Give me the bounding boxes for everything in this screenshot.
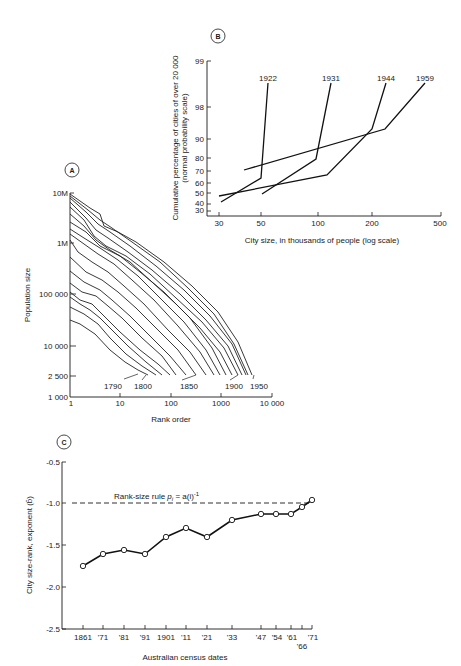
panel-a-x-ticks [120,393,272,397]
svg-text:'61: '61 [287,633,298,642]
panel-a-y-tick-labels: 10M 1M 100 000 10 000 2 500 1 000 [39,189,68,402]
svg-text:'54: '54 [272,633,283,642]
svg-text:100: 100 [311,219,325,228]
panel-a-x-tick-labels: 1 10 100 1000 10 000 [69,399,285,408]
svg-text:99: 99 [195,57,204,66]
series-1931 [262,83,331,194]
svg-text:200: 200 [365,219,379,228]
svg-text:50: 50 [195,189,204,198]
panel-a-leaders [124,374,254,380]
svg-text:'47: '47 [256,633,267,642]
svg-text:1950: 1950 [250,382,268,391]
series-1959 [244,83,425,170]
panel-b-series [219,83,425,202]
svg-text:70: 70 [195,167,204,176]
svg-text:'33: '33 [227,633,238,642]
svg-text:1850: 1850 [180,382,198,391]
svg-text:90: 90 [195,135,204,144]
svg-text:1944: 1944 [377,74,395,83]
svg-text:'21: '21 [202,633,213,642]
panel-a-y-title: Population size [23,267,32,322]
panel-b-y-title-2: (normal probability scale) [180,93,189,183]
panel-b-x-tick-labels: 30 50 100 200 500 [215,219,448,228]
svg-text:-2.0: -2.0 [46,583,60,592]
svg-text:'11: '11 [181,633,191,642]
svg-text:80: 80 [195,154,204,163]
svg-text:1800: 1800 [134,382,152,391]
panel-a-series [70,194,252,375]
svg-text:1861: 1861 [74,633,92,642]
svg-text:1922: 1922 [259,74,277,83]
svg-text:'81: '81 [119,633,130,642]
svg-text:2 500: 2 500 [48,372,69,381]
panel-a-y-ticks [70,193,76,376]
panel-b: B 99 98 90 80 70 60 50 40 30 [171,29,447,245]
series-1944 [219,83,386,196]
panel-a-letter: A [69,167,74,174]
panel-b-letter: B [215,33,220,40]
svg-text:-0.5: -0.5 [46,458,60,467]
panel-c-x-ticks [83,625,312,629]
panel-c-x-tick-labels: 1861 '71 '81 '91 1901 '11 '21 '33 '47 '5… [74,633,319,651]
svg-text:1931: 1931 [322,74,340,83]
panel-b-x-title: City size, in thousands of people (log s… [245,236,400,245]
svg-text:'71: '71 [308,633,319,642]
svg-text:10M: 10M [52,189,68,198]
panel-b-y-title-1: Cumulative percentage of cities of over … [171,55,180,221]
panel-c-y-title: City size-rank, exponent (b̂) [25,496,34,594]
svg-text:10 000: 10 000 [260,399,285,408]
panel-b-x-ticks [219,212,441,216]
panel-c-x-title: Australian census dates [143,653,228,662]
svg-text:1 000: 1 000 [48,393,69,402]
svg-text:1901: 1901 [157,633,175,642]
svg-text:98: 98 [195,103,204,112]
svg-text:1900: 1900 [225,382,243,391]
series-1922 [221,83,268,202]
svg-text:10 000: 10 000 [44,342,69,351]
svg-text:30: 30 [195,206,204,215]
svg-text:100: 100 [164,399,178,408]
panel-a-x-title: Rank order [151,415,191,424]
svg-text:500: 500 [433,219,447,228]
svg-text:50: 50 [257,219,266,228]
svg-text:'71: '71 [98,633,109,642]
svg-text:30: 30 [215,219,224,228]
panel-c-y-tick-labels: -0.5 -1.0 -1.5 -2.0 -2.5 [46,458,60,634]
svg-text:60: 60 [195,179,204,188]
panel-b-y-tick-labels: 99 98 90 80 70 60 50 40 30 [195,57,204,215]
rank-size-rule-label: Rank-size rule pi = a(i)-1 [114,491,200,502]
panel-a-series-labels: 1790 1800 1850 1900 1950 [104,382,268,391]
exponent-series-line [83,500,312,566]
svg-text:1790: 1790 [104,382,122,391]
panel-b-y-ticks [207,61,211,211]
svg-text:-1.5: -1.5 [46,541,60,550]
svg-text:10: 10 [116,399,125,408]
svg-text:1959: 1959 [416,74,434,83]
panel-c-y-ticks [62,462,66,629]
svg-text:100 000: 100 000 [39,290,68,299]
svg-text:1000: 1000 [212,399,230,408]
figure: B 99 98 90 80 70 60 50 40 30 [0,0,461,666]
panel-c-letter: C [61,439,66,446]
svg-text:-1.0: -1.0 [46,499,60,508]
svg-text:1M: 1M [57,239,68,248]
svg-text:'66: '66 [297,642,308,651]
panel-b-series-labels: 1922 1931 1944 1959 [259,74,434,83]
svg-text:1: 1 [69,399,74,408]
svg-text:-2.5: -2.5 [46,625,60,634]
panel-c: C -0.5 -1.0 -1.5 -2.0 -2.5 [25,435,319,662]
svg-text:'91: '91 [140,633,151,642]
panel-a: A 10M 1M 100 000 10 000 2 500 1 000 1 10 [23,163,285,424]
